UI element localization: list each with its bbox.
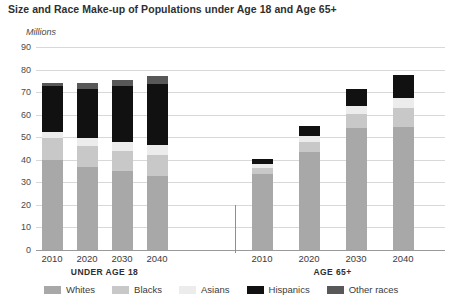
bar-segment-hispanics [112,86,133,141]
bar-segment-hispanics [42,86,63,131]
bar-segment-asians [112,142,133,151]
legend-item-blacks[interactable]: Blacks [112,284,162,295]
x-tick-label-age65-2030: 2030 [336,253,376,264]
y-tick-label-10: 10 [21,222,31,232]
bar-segment-whites [299,152,320,250]
group-label-under-age-18: UNDER AGE 18 [25,267,185,277]
bar-segment-asians [299,136,320,142]
x-tick-label-age65-2010: 2010 [242,253,282,264]
bar-segment-hispanics [346,89,367,106]
bar-segment-other-races [77,83,98,89]
y-axis-unit-label: Millions [26,27,56,37]
bar-segment-hispanics [299,126,320,136]
y-tick-label-50: 50 [21,132,31,142]
group-divider [235,205,236,253]
gridline-0: 0 [36,250,445,251]
legend-item-hispanics[interactable]: Hispanics [247,284,310,295]
chart-title: Size and Race Make-up of Populations und… [8,3,337,15]
bar-segment-asians [147,145,168,155]
bar-segment-asians [77,138,98,146]
legend-swatch-other-races [327,286,344,294]
bar-segment-blacks [252,168,273,175]
bar-segment-blacks [346,114,367,129]
legend-label: Hispanics [269,284,310,295]
bar-segment-whites [393,127,414,250]
x-tick-label-age65-2020: 2020 [289,253,329,264]
group-label-age-65-plus: AGE 65+ [253,267,413,277]
y-tick-label-60: 60 [21,110,31,120]
legend-swatch-blacks [112,286,129,294]
y-tick-label-30: 30 [21,177,31,187]
legend-label: Blacks [134,284,162,295]
bar-segment-hispanics [252,159,273,165]
bar-segment-other-races [147,76,168,84]
bar-segment-whites [112,171,133,250]
legend-swatch-hispanics [247,286,264,294]
legend-swatch-whites [44,286,61,294]
bar-segment-whites [147,176,168,250]
bar-segment-blacks [147,155,168,175]
bar-segment-other-races [42,83,63,86]
x-tick-label-age65-2040: 2040 [383,253,423,264]
bar-segment-whites [252,174,273,250]
legend-label: Other races [349,284,399,295]
bar-segment-hispanics [77,89,98,139]
plot-area: 0102030405060708090 [36,47,445,250]
legend-item-other-races[interactable]: Other races [327,284,399,295]
bar-segment-asians [252,164,273,167]
chart-legend: WhitesBlacksAsiansHispanicsOther races [44,284,415,295]
legend-label: Whites [66,284,95,295]
bar-segment-blacks [77,146,98,166]
legend-label: Asians [201,284,230,295]
bar-segment-hispanics [147,84,168,145]
bar-segment-hispanics [393,75,414,98]
y-tick-label-40: 40 [21,155,31,165]
bar-segment-blacks [112,151,133,171]
y-tick-label-90: 90 [21,42,31,52]
y-tick-label-70: 70 [21,87,31,97]
bar-segment-whites [346,128,367,250]
bar-segment-whites [42,160,63,250]
bar-segment-blacks [299,142,320,152]
legend-item-whites[interactable]: Whites [44,284,95,295]
gridline-80: 80 [36,70,445,71]
bar-segment-asians [346,106,367,114]
legend-swatch-asians [179,286,196,294]
x-tick-label-under18-2030: 2030 [102,253,142,264]
bar-segment-asians [393,98,414,108]
bar-segment-blacks [42,138,63,159]
x-tick-label-under18-2020: 2020 [67,253,107,264]
bar-segment-asians [42,132,63,139]
x-tick-label-under18-2040: 2040 [137,253,177,264]
x-tick-label-under18-2010: 2010 [32,253,72,264]
legend-item-asians[interactable]: Asians [179,284,230,295]
y-tick-label-0: 0 [26,245,31,255]
bar-segment-whites [77,167,98,250]
y-tick-label-80: 80 [21,65,31,75]
y-tick-label-20: 20 [21,200,31,210]
gridline-90: 90 [36,47,445,48]
bar-segment-other-races [112,80,133,87]
bar-segment-blacks [393,108,414,127]
